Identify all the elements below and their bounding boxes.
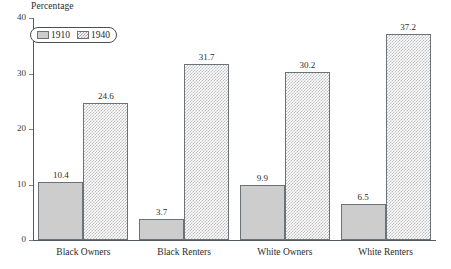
y-axis-tick-mark — [29, 129, 33, 130]
bar-1940-black-renters[interactable]: 31.7 — [184, 64, 229, 240]
y-axis-tick-mark — [29, 240, 33, 241]
legend-swatch-1910-icon — [37, 31, 49, 39]
bar-1940-black-owners[interactable]: 24.6 — [83, 103, 128, 240]
legend-item-1910[interactable]: 1910 — [37, 30, 70, 40]
bar-1910-white-renters[interactable]: 6.5 — [341, 204, 386, 240]
chart-legend: 1910 1940 — [30, 27, 117, 43]
legend-item-1940[interactable]: 1940 — [77, 30, 110, 40]
legend-swatch-1940-icon — [77, 31, 89, 39]
bar-group: 6.537.2 — [341, 18, 431, 240]
bar-1940-white-renters[interactable]: 37.2 — [386, 34, 431, 240]
x-axis-label-black-owners: Black Owners — [56, 247, 110, 257]
legend-label-1910: 1910 — [51, 30, 70, 40]
bar-group: 3.731.7 — [139, 18, 229, 240]
y-axis-tick-label: 0 — [22, 234, 27, 244]
x-axis-label-black-renters: Black Renters — [157, 247, 211, 257]
bar-value-label: 24.6 — [98, 91, 114, 101]
y-axis-line — [33, 18, 34, 240]
bar-value-label: 6.5 — [358, 192, 369, 202]
bar-1910-black-owners[interactable]: 10.4 — [38, 182, 83, 240]
bar-1910-white-owners[interactable]: 9.9 — [240, 185, 285, 240]
bar-value-label: 30.2 — [300, 60, 316, 70]
bar-value-label: 37.2 — [400, 22, 416, 32]
bar-1940-white-owners[interactable]: 30.2 — [285, 72, 330, 240]
legend-label-1940: 1940 — [91, 30, 110, 40]
bar-group: 9.930.2 — [240, 18, 330, 240]
bar-group: 10.424.6 — [38, 18, 128, 240]
y-axis-tick-mark — [29, 18, 33, 19]
bar-value-label: 3.7 — [156, 207, 167, 217]
bar-value-label: 10.4 — [53, 170, 69, 180]
y-axis-tick-label: 20 — [17, 123, 26, 133]
x-axis-label-white-owners: White Owners — [257, 247, 312, 257]
x-axis-label-white-renters: White Renters — [358, 247, 413, 257]
y-axis-tick-mark — [29, 74, 33, 75]
x-axis-line — [33, 240, 436, 241]
y-axis-tick-label: 40 — [17, 12, 26, 22]
bar-1910-black-renters[interactable]: 3.7 — [139, 219, 184, 240]
y-axis-tick-mark — [29, 185, 33, 186]
y-axis-tick-label: 30 — [17, 68, 26, 78]
y-axis-tick-label: 10 — [17, 179, 26, 189]
bar-chart: Percentage 010203040 10.424.63.731.79.93… — [0, 0, 451, 269]
bar-value-label: 31.7 — [199, 52, 215, 62]
y-axis-title: Percentage — [31, 1, 74, 11]
bar-value-label: 9.9 — [257, 173, 268, 183]
